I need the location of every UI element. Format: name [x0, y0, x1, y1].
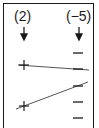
right-down-arrow-icon — [76, 27, 82, 40]
left-down-arrow-icon — [21, 27, 27, 40]
plus-icon — [19, 101, 29, 111]
plus-icon — [19, 60, 29, 70]
minus-icons — [73, 53, 83, 118]
charge-diagram — [0, 0, 99, 128]
